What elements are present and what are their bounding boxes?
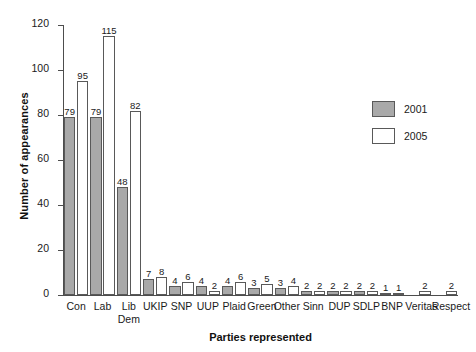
x-axis-label-bnp: BNP: [379, 300, 405, 313]
x-axis-label-green: Green: [247, 300, 273, 313]
x-axis-label-dup: DUP: [326, 300, 352, 313]
x-axis-label-line: SDLP: [353, 300, 380, 312]
bar-2005-lab: 115: [103, 36, 115, 295]
bar-2005-ukip: 8: [156, 277, 168, 295]
x-axis-label-line: Plaid: [222, 300, 245, 312]
bar-value-label: 2: [370, 280, 375, 291]
legend-item-2005: 2005: [372, 125, 427, 146]
bar-value-label: 4: [225, 275, 230, 286]
bar-group: 46: [222, 25, 247, 295]
bar-value-label: 2: [422, 280, 427, 291]
bar-group: 78: [143, 25, 168, 295]
x-axis-label-respect: Respect: [432, 300, 458, 313]
bar-value-label: 1: [396, 282, 401, 293]
x-axis-label-lab: Lab: [89, 300, 115, 313]
bar-value-label: 4: [291, 275, 296, 286]
bar-2001-lab: 79: [90, 117, 102, 295]
x-axis-label-line: Con: [67, 300, 86, 312]
legend-swatch-2005: [372, 128, 395, 144]
x-axis-label-line: Green: [247, 300, 276, 312]
y-axis-tick: 60: [58, 160, 63, 161]
y-axis-tick-label: 20: [37, 242, 49, 254]
bar-value-label: 2: [357, 280, 362, 291]
x-axis-label-other: Other: [274, 300, 300, 313]
x-axis-line: [63, 295, 458, 296]
x-axis-label-line: BNP: [381, 300, 403, 312]
bar-value-label: 82: [130, 100, 141, 111]
y-axis-tick-label: 100: [31, 62, 49, 74]
bar-2001-lib-dem: 48: [117, 187, 129, 295]
y-axis-tick: 20: [58, 250, 63, 251]
bar-group: 11: [380, 25, 405, 295]
x-axis-label-plaid: Plaid: [221, 300, 247, 313]
x-axis-label-ukip: UKIP: [142, 300, 168, 313]
bar-2005-sdlp: 2: [367, 291, 379, 296]
bar-2001-ukip: 7: [143, 279, 155, 295]
y-axis-tick: 100: [58, 70, 63, 71]
bar-2005-sinn: 2: [314, 291, 326, 296]
x-axis-title: Parties represented: [63, 331, 458, 343]
bar-group: 35: [248, 25, 273, 295]
bar-value-label: 4: [172, 275, 177, 286]
bar-value-label: 3: [278, 277, 283, 288]
y-axis-tick-label: 80: [37, 107, 49, 119]
bar-group: 22: [301, 25, 326, 295]
bar-group: 7995: [64, 25, 89, 295]
bar-value-label: 2: [449, 280, 454, 291]
bar-value-label: 79: [64, 106, 75, 117]
bar-value-label: 6: [238, 271, 243, 282]
bar-2001-sdlp: 2: [354, 291, 366, 296]
x-axis-label-con: Con: [63, 300, 89, 313]
bar-value-label: 6: [185, 271, 190, 282]
x-axis-label-line: UKIP: [143, 300, 168, 312]
chart-legend: 20012005: [372, 98, 427, 152]
legend-label-2001: 2001: [404, 103, 427, 115]
bar-2005-con: 95: [77, 81, 89, 295]
bar-2005-green: 5: [261, 284, 273, 295]
bar-2005-respect: 2: [446, 291, 458, 296]
x-axis-label-line: Other: [274, 300, 300, 312]
bar-group: 2: [433, 25, 458, 295]
x-axis-label-line: UUP: [197, 300, 219, 312]
bar-group: 79115: [90, 25, 115, 295]
y-axis-tick-label: 40: [37, 197, 49, 209]
bar-group: 2: [406, 25, 431, 295]
bar-value-label: 4: [199, 275, 204, 286]
bar-2005-uup: 2: [209, 291, 221, 296]
x-axis-label-line: Dem: [116, 313, 142, 326]
bar-2001-con: 79: [64, 117, 76, 295]
bar-2001-green: 3: [248, 288, 260, 295]
bar-2001-other: 3: [275, 288, 287, 295]
bar-2005-other: 4: [288, 286, 300, 295]
bar-group: 46: [169, 25, 194, 295]
bar-value-label: 48: [117, 176, 128, 187]
bar-2005-dup: 2: [340, 291, 352, 296]
x-axis-label-line: Sinn: [303, 300, 324, 312]
bar-group: 4882: [117, 25, 142, 295]
bar-2005-lib-dem: 82: [130, 111, 142, 296]
legend-label-2005: 2005: [404, 130, 427, 142]
x-axis-label-line: Respect: [432, 300, 471, 312]
bar-value-label: 1: [383, 282, 388, 293]
bar-2005-bnp: 1: [393, 293, 405, 296]
bar-group: 22: [327, 25, 352, 295]
bar-2001-snp: 4: [169, 286, 181, 295]
bar-chart: Number of appearances 020406080100120 79…: [0, 0, 476, 352]
x-axis-label-sinn: Sinn: [300, 300, 326, 313]
y-axis-tick: 0: [58, 295, 63, 296]
x-axis-label-uup: UUP: [195, 300, 221, 313]
x-axis-label-sdlp: SDLP: [353, 300, 379, 313]
bar-value-label: 95: [77, 70, 88, 81]
x-axis-label-snp: SNP: [168, 300, 194, 313]
bar-value-label: 2: [304, 280, 309, 291]
bar-group: 34: [275, 25, 300, 295]
y-axis-tick-label: 120: [31, 17, 49, 29]
bar-2001-uup: 4: [196, 286, 208, 295]
bar-value-label: 7: [146, 268, 151, 279]
bar-2005-veritas: 2: [419, 291, 431, 296]
x-axis-label-lib-dem: LibDem: [116, 300, 142, 325]
plot-area: 020406080100120 799579115488278464246353…: [63, 25, 458, 295]
x-axis-label-veritas: Veritas: [405, 300, 431, 313]
y-axis-tick: 40: [58, 205, 63, 206]
bar-2001-dup: 2: [327, 291, 339, 296]
